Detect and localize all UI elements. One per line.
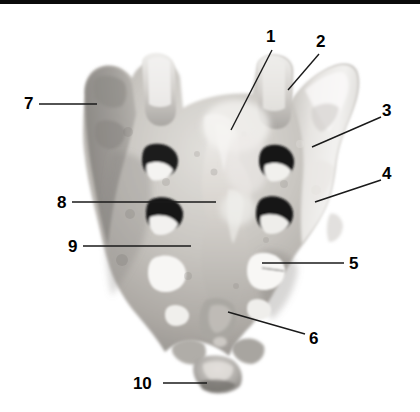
label-1: 1 [266,28,275,45]
label-4: 4 [382,165,391,182]
coccyx [193,356,242,394]
label-8: 8 [57,194,66,211]
anatomy-figure: 1 2 3 4 5 6 7 8 9 10 [0,0,420,412]
label-10: 10 [133,375,152,392]
label-7: 7 [24,95,33,112]
label-6: 6 [309,330,318,347]
label-5: 5 [349,255,358,272]
label-2: 2 [316,33,325,50]
label-9: 9 [68,238,77,255]
label-3: 3 [382,102,391,119]
